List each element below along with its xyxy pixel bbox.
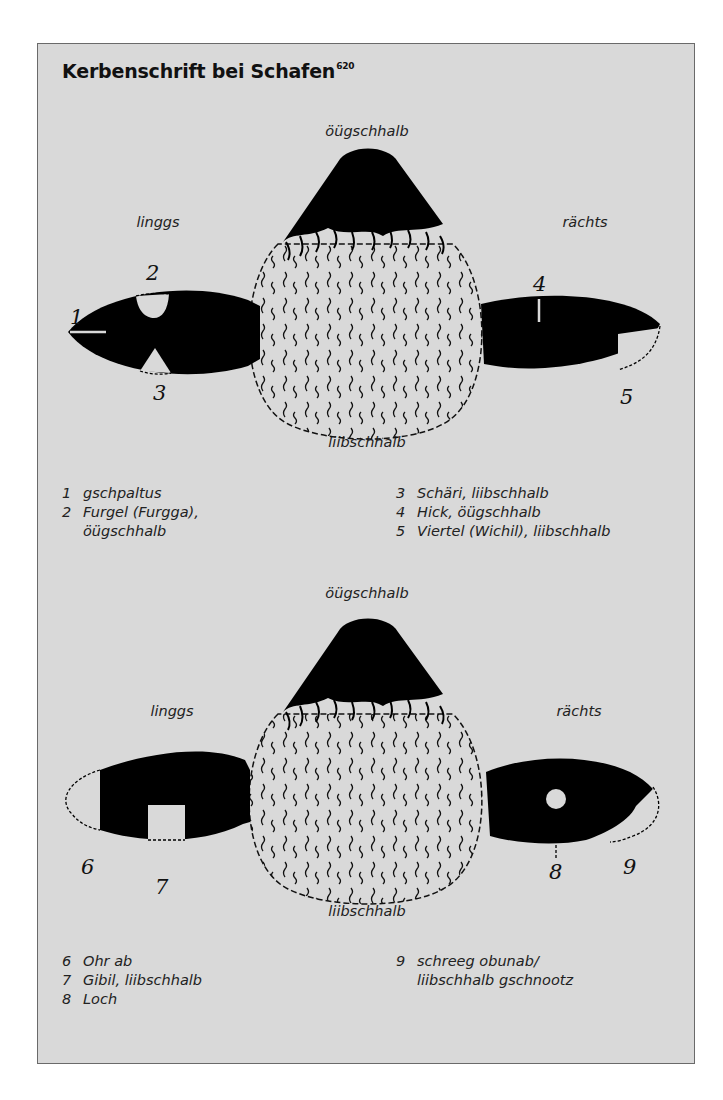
marker-9: 9 (623, 855, 636, 879)
notch-gibil (148, 805, 185, 840)
legend-num: 9 (396, 952, 417, 990)
legend-text: Furgel (Furgga), öügschhalb (83, 503, 199, 541)
marker-7: 7 (155, 875, 169, 899)
legend-num: 2 (62, 503, 83, 541)
sheep-head-diagram-bottom: öügschhalb linggs rächts liibschhalb 6 7 (38, 574, 696, 919)
notch-viertel (618, 328, 660, 370)
marker-4: 4 (532, 272, 546, 296)
right-ear-top: 4 5 (481, 272, 660, 409)
footnote-marker: 620 (336, 61, 354, 71)
legend-item: 9schreeg obunab/ liibschhalb gschnootz (396, 952, 573, 990)
marker-5: 5 (620, 385, 633, 409)
legend-item: 8Loch (62, 990, 202, 1009)
label-top: öügschhalb (325, 585, 408, 601)
right-ear-bottom: 8 9 (486, 758, 659, 884)
label-right: rächts (562, 214, 608, 230)
legend-text: gschpaltus (83, 484, 161, 503)
legend-item: 3Schäri, liibschhalb (396, 484, 611, 503)
marker-3: 3 (153, 381, 166, 405)
label-top: öügschhalb (325, 123, 408, 139)
legend-item: 7Gibil, liibschhalb (62, 971, 202, 990)
legend-item: 6Ohr ab (62, 952, 202, 971)
legend-text: schreeg obunab/ liibschhalb gschnootz (417, 952, 573, 990)
legend-num: 7 (62, 971, 83, 990)
legend-text: Loch (83, 990, 117, 1009)
marker-8: 8 (549, 860, 562, 884)
legend-item: 4Hick, öügschhalb (396, 503, 611, 522)
legend-text: Gibil, liibschhalb (83, 971, 202, 990)
legend-text: Hick, öügschhalb (417, 503, 541, 522)
legend-top-right: 3Schäri, liibschhalb 4Hick, öügschhalb 5… (396, 484, 611, 541)
figure-title: Kerbenschrift bei Schafen620 (62, 60, 354, 82)
legend-text: Schäri, liibschhalb (417, 484, 549, 503)
legend-num: 4 (396, 503, 417, 522)
label-left: linggs (150, 703, 194, 719)
label-left: linggs (136, 214, 180, 230)
left-ear-bottom: 6 7 (66, 751, 250, 899)
marker-2: 2 (145, 261, 159, 285)
legend-item: 1gschpaltus (62, 484, 199, 503)
figure-box: Kerbenschrift bei Schafen620 öügschhalb … (37, 43, 695, 1064)
sheep-head-diagram-top: öügschhalb linggs rächts liibschhalb (38, 114, 696, 459)
title-text: Kerbenschrift bei Schafen (62, 60, 335, 82)
legend-num: 3 (396, 484, 417, 503)
sheep-head-icon (249, 619, 482, 905)
legend-bottom-right: 9schreeg obunab/ liibschhalb gschnootz (396, 952, 573, 990)
left-ear-top: 1 2 3 (68, 261, 260, 405)
legend-bottom-left: 6Ohr ab 7Gibil, liibschhalb 8Loch (62, 952, 202, 1009)
marker-1: 1 (70, 305, 83, 329)
legend-item: 5Viertel (Wichil), liibschhalb (396, 522, 611, 541)
sheep-head-icon (249, 149, 482, 440)
legend-text: Viertel (Wichil), liibschhalb (417, 522, 611, 541)
notch-loch (546, 789, 566, 809)
marker-6: 6 (81, 855, 94, 879)
legend-top-left: 1gschpaltus 2Furgel (Furgga), öügschhalb (62, 484, 199, 541)
legend-text: Ohr ab (83, 952, 132, 971)
label-right: rächts (556, 703, 602, 719)
legend-num: 5 (396, 522, 417, 541)
legend-num: 1 (62, 484, 83, 503)
legend-num: 6 (62, 952, 83, 971)
legend-item: 2Furgel (Furgga), öügschhalb (62, 503, 199, 541)
legend-num: 8 (62, 990, 83, 1009)
label-bottom: liibschhalb (328, 903, 405, 919)
notch-ohr-ab (66, 770, 100, 830)
